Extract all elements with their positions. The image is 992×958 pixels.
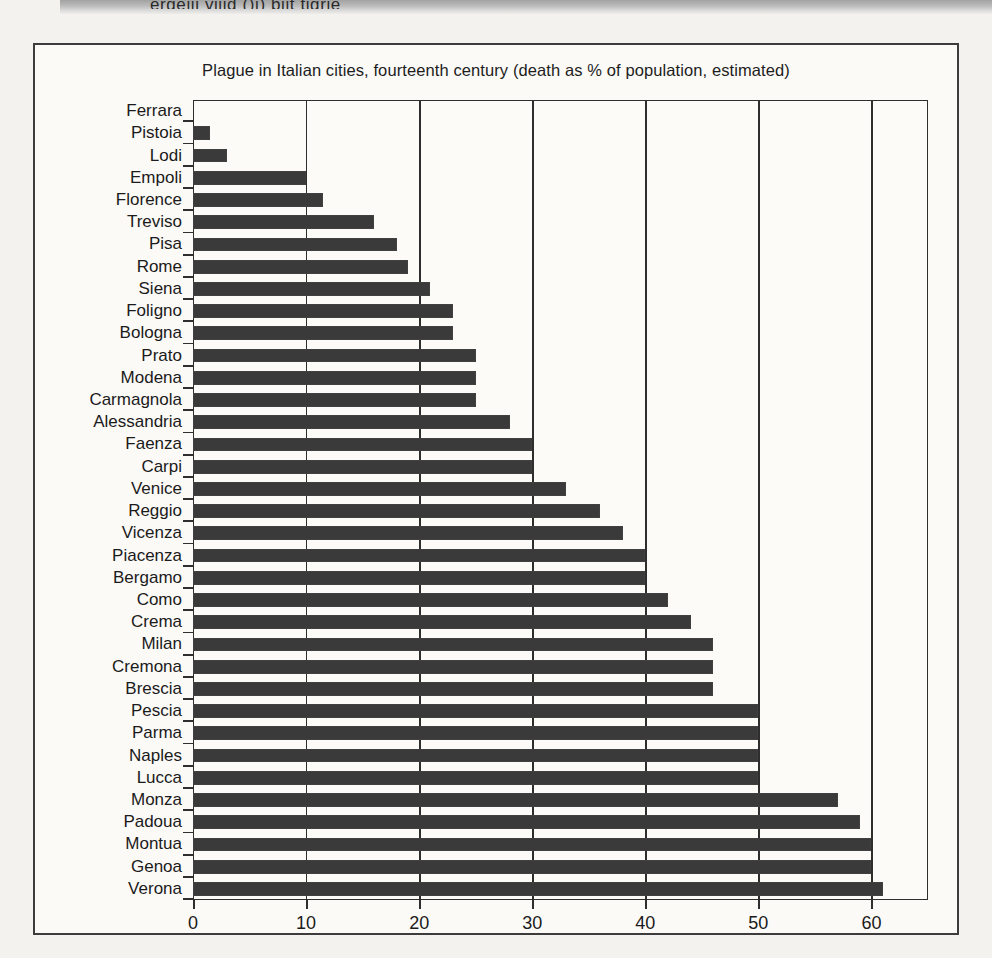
y-tick-mark	[183, 209, 193, 211]
bar-modena	[193, 371, 476, 385]
category-label-pisa: Pisa	[149, 235, 182, 252]
bar-row: Pescia	[193, 700, 928, 722]
category-label-brescia: Brescia	[125, 680, 182, 697]
bar-row: Pisa	[193, 233, 928, 255]
y-tick-mark	[183, 854, 193, 856]
y-tick-mark	[183, 476, 193, 478]
y-tick-mark	[183, 698, 193, 700]
bar-row: Venice	[193, 478, 928, 500]
category-label-milan: Milan	[141, 635, 182, 652]
bar-carpi	[193, 460, 532, 474]
category-label-rome: Rome	[137, 258, 182, 275]
bar-piacenza	[193, 549, 645, 563]
bar-padoua	[193, 815, 860, 829]
y-tick-mark	[183, 232, 193, 234]
bar-venice	[193, 482, 566, 496]
bar-florence	[193, 193, 323, 207]
x-tick-40	[645, 900, 647, 909]
bar-bergamo	[193, 571, 645, 585]
category-label-pescia: Pescia	[131, 702, 182, 719]
x-tick-label-20: 20	[409, 913, 429, 934]
bar-parma	[193, 726, 758, 740]
bar-lucca	[193, 771, 758, 785]
y-tick-mark	[183, 187, 193, 189]
y-tick-mark	[183, 832, 193, 834]
x-tick-10	[306, 900, 308, 909]
bar-rome	[193, 260, 408, 274]
figure-frame: Plague in Italian cities, fourteenth cen…	[33, 43, 959, 935]
bar-row: Montua	[193, 833, 928, 855]
x-tick-label-50: 50	[748, 913, 768, 934]
category-label-bergamo: Bergamo	[113, 569, 182, 586]
y-tick-mark	[183, 676, 193, 678]
bar-como	[193, 593, 668, 607]
category-label-alessandria: Alessandria	[93, 413, 182, 430]
category-label-verona: Verona	[128, 880, 182, 897]
category-label-florence: Florence	[116, 191, 182, 208]
x-tick-60	[871, 900, 873, 909]
y-tick-mark	[183, 520, 193, 522]
bar-row: Cremona	[193, 656, 928, 678]
y-tick-mark	[183, 454, 193, 456]
category-label-montua: Montua	[125, 835, 182, 852]
bar-faenza	[193, 438, 532, 452]
category-label-naples: Naples	[129, 747, 182, 764]
bar-bologna	[193, 326, 453, 340]
bar-row: Crema	[193, 611, 928, 633]
x-tick-label-30: 30	[522, 913, 542, 934]
y-tick-mark	[183, 743, 193, 745]
bar-row: Alessandria	[193, 411, 928, 433]
bar-reggio	[193, 504, 600, 518]
category-label-faenza: Faenza	[125, 435, 182, 452]
category-label-siena: Siena	[139, 280, 182, 297]
chart-title: Plague in Italian cities, fourteenth cen…	[35, 61, 957, 80]
bar-row: Siena	[193, 278, 928, 300]
category-label-lodi: Lodi	[150, 147, 182, 164]
category-label-cremona: Cremona	[112, 658, 182, 675]
bar-row: Como	[193, 589, 928, 611]
bar-row: Padoua	[193, 811, 928, 833]
bar-pistoia	[193, 126, 210, 140]
y-tick-mark	[183, 565, 193, 567]
category-label-empoli: Empoli	[130, 169, 182, 186]
bar-row: Faenza	[193, 433, 928, 455]
bar-row: Parma	[193, 722, 928, 744]
bar-alessandria	[193, 415, 510, 429]
category-label-carmagnola: Carmagnola	[89, 391, 182, 408]
x-axis: 0102030405060	[193, 900, 928, 946]
bar-vicenza	[193, 526, 623, 540]
category-label-vicenza: Vicenza	[122, 524, 182, 541]
bar-montua	[193, 838, 871, 852]
bar-row: Brescia	[193, 678, 928, 700]
bar-row: Ferrara	[193, 100, 928, 122]
category-label-crema: Crema	[131, 613, 182, 630]
y-tick-mark	[183, 876, 193, 878]
x-tick-label-60: 60	[861, 913, 881, 934]
bar-rows: FerraraPistoiaLodiEmpoliFlorenceTrevisoP…	[193, 100, 928, 900]
category-label-modena: Modena	[121, 369, 182, 386]
y-tick-mark	[183, 632, 193, 634]
x-tick-label-10: 10	[296, 913, 316, 934]
y-tick-mark	[183, 787, 193, 789]
bar-carmagnola	[193, 393, 476, 407]
category-label-como: Como	[137, 591, 182, 608]
category-label-padoua: Padoua	[123, 813, 182, 830]
bar-prato	[193, 349, 476, 363]
category-label-venice: Venice	[131, 480, 182, 497]
y-tick-mark	[183, 587, 193, 589]
category-label-reggio: Reggio	[128, 502, 182, 519]
bar-treviso	[193, 215, 374, 229]
x-tick-20	[419, 900, 421, 909]
category-label-pistoia: Pistoia	[131, 124, 182, 141]
category-label-prato: Prato	[141, 347, 182, 364]
y-tick-mark	[183, 343, 193, 345]
bar-empoli	[193, 171, 306, 185]
category-label-carpi: Carpi	[141, 458, 182, 475]
bar-siena	[193, 282, 430, 296]
bar-row: Carmagnola	[193, 389, 928, 411]
bar-row: Monza	[193, 789, 928, 811]
bar-row: Verona	[193, 878, 928, 900]
y-tick-mark	[183, 165, 193, 167]
bar-row: Prato	[193, 344, 928, 366]
plot-area: FerraraPistoiaLodiEmpoliFlorenceTrevisoP…	[193, 100, 928, 900]
